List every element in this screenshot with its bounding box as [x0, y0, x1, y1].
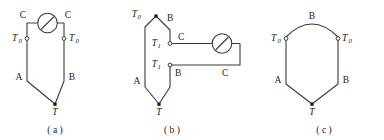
panel-c-label-limb-left: A [275, 75, 282, 85]
panel-b-hot-junction-node [157, 103, 160, 106]
panel-c-label-limb-right: B [343, 75, 349, 85]
panel-b-label-ref-top-sub: 0 [138, 13, 142, 20]
panel-b-label-lead-lower: C [222, 68, 228, 78]
panel-c-label-ref-left-main: T [271, 33, 277, 43]
panel-c-label-ref-right-sub: 0 [348, 37, 352, 44]
panel-a-wire-limb-b [55, 40, 64, 104]
panel-b-wire-limb-b-lower [159, 67, 170, 105]
panel-a-label-ref-right: T 0 [69, 33, 79, 44]
panel-c-terminal-left[interactable] [284, 37, 288, 41]
panel-b-label-lead-upper: C [178, 32, 184, 42]
panel-a-wire-left-lead [27, 23, 38, 37]
thermocouple-figure: C C T 0 T 0 A B T ( a ) [0, 0, 384, 140]
panel-b-label-limb-top-right: B [167, 13, 173, 23]
panel-c-label-hot-junction: T [309, 107, 315, 117]
panel-b-terminal-lower[interactable] [168, 63, 172, 67]
panel-b-label-mid-lower: T 1 [152, 59, 161, 70]
panel-a-hot-junction-node [53, 103, 56, 106]
panel-a-terminal-left[interactable] [25, 37, 29, 41]
panel-a-wire-right-lead [57, 23, 64, 37]
panel-a-caption: ( a ) [47, 125, 62, 136]
panel-b-ref-junction-node [154, 14, 157, 17]
panel-b: T 0 B T 1 C T 1 B C A T ( b ) [132, 9, 240, 136]
panel-b-caption: ( b ) [164, 125, 180, 136]
panel-c: B T 0 T 0 A B T ( c ) [271, 11, 352, 136]
panel-c-label-ref-left: T 0 [271, 33, 281, 44]
panel-a-label-limb-left: A [16, 72, 23, 82]
panel-c-hot-junction-node [310, 103, 313, 106]
panel-a-wire-limb-a [27, 40, 55, 104]
panel-c-caption: ( c ) [316, 125, 331, 136]
panel-c-wire-limb-a [286, 40, 312, 104]
panel-c-label-ref-right-main: T [342, 33, 348, 43]
panel-a-label-ref-left-main: T [12, 33, 18, 43]
panel-a-label-ref-left-sub: 0 [18, 37, 22, 44]
panel-b-label-hot-junction: T [156, 107, 162, 117]
panel-a: C C T 0 T 0 A B T ( a ) [12, 10, 79, 136]
panel-a-label-ref-left: T 0 [12, 33, 22, 44]
panel-c-label-ref-left-sub: 0 [277, 37, 281, 44]
panel-b-label-mid-lower-sub: 1 [158, 63, 161, 70]
panel-c-terminal-right[interactable] [336, 37, 340, 41]
panel-a-terminal-right[interactable] [62, 37, 66, 41]
panel-b-terminal-upper[interactable] [168, 42, 172, 46]
panel-a-label-lead-left: C [20, 10, 26, 20]
panel-c-wire-limb-b [312, 40, 338, 104]
panel-a-label-hot-junction: T [52, 107, 58, 117]
panel-b-label-mid-upper: T 1 [152, 38, 161, 49]
panel-b-label-limb-lower-right: B [175, 68, 181, 78]
panel-a-label-ref-right-main: T [69, 33, 75, 43]
panel-b-label-limb-left: A [134, 76, 141, 86]
panel-c-label-ref-right: T 0 [342, 33, 352, 44]
panel-b-label-ref-top: T 0 [132, 9, 142, 20]
panel-c-wire-arc-b [286, 24, 338, 37]
panel-a-label-limb-right: B [69, 72, 75, 82]
panel-c-label-arc-top: B [309, 11, 315, 21]
panel-a-label-lead-right: C [65, 10, 71, 20]
panel-b-label-mid-upper-sub: 1 [158, 42, 161, 49]
figure-root: C C T 0 T 0 A B T ( a ) [0, 0, 384, 140]
panel-a-label-ref-right-sub: 0 [75, 37, 79, 44]
